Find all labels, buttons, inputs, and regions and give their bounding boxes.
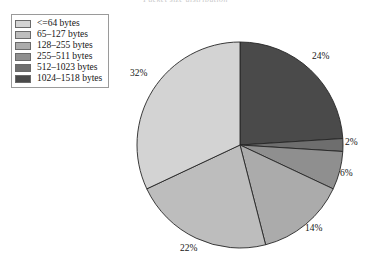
legend-swatch-icon — [15, 31, 31, 39]
pie-slices — [137, 42, 343, 248]
pie-slice-percentage-label: 2% — [345, 137, 358, 147]
legend-swatch-icon — [15, 53, 31, 61]
packet-size-legend: <=64 bytes 65–127 bytes 128–255 bytes 25… — [11, 14, 109, 88]
legend-item-label: 255–511 bytes — [37, 51, 92, 62]
legend-swatch-icon — [15, 64, 31, 72]
pie-slice-percentage-label: 6% — [340, 168, 353, 178]
legend-item[interactable]: 512–1023 bytes — [15, 62, 102, 73]
legend-item[interactable]: <=64 bytes — [15, 18, 102, 29]
pie-slice-percentage-label: 32% — [130, 68, 147, 78]
legend-item[interactable]: 128–255 bytes — [15, 40, 102, 51]
legend-item[interactable]: 1024–1518 bytes — [15, 73, 102, 84]
pie-slice-percentage-label: 14% — [305, 223, 322, 233]
legend-item-label: <=64 bytes — [37, 18, 80, 29]
legend-item[interactable]: 65–127 bytes — [15, 29, 102, 40]
pie-slice-percentage-label: 22% — [180, 243, 197, 253]
legend-item-label: 1024–1518 bytes — [37, 73, 102, 84]
legend-item-label: 512–1023 bytes — [37, 62, 97, 73]
pie-chart-figure: Packet size distribution 24%2%6%14%22%32… — [0, 0, 371, 268]
legend-swatch-icon — [15, 42, 31, 50]
legend-swatch-icon — [15, 20, 31, 28]
legend-item[interactable]: 255–511 bytes — [15, 51, 102, 62]
pie-slice-percentage-label: 24% — [312, 51, 329, 61]
legend-item-label: 128–255 bytes — [37, 40, 93, 51]
legend-swatch-icon — [15, 75, 31, 83]
legend-item-label: 65–127 bytes — [37, 29, 88, 40]
